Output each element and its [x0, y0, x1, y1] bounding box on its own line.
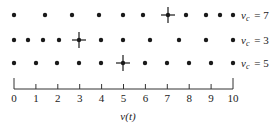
sample-dot	[41, 38, 45, 42]
tick-label: 5	[121, 92, 127, 104]
crosshair-marker-icon	[116, 55, 130, 71]
sampling-diagram: vc = 7vc = 3vc = 5 012345678910 v(t)	[0, 0, 279, 131]
sample-dot	[177, 38, 181, 42]
sample-row: vc = 5	[12, 55, 269, 71]
sample-rows: vc = 7vc = 3vc = 5	[12, 7, 269, 71]
sample-dot	[77, 61, 81, 65]
sample-dot	[99, 38, 103, 42]
tick-label: 3	[77, 92, 83, 104]
sample-dot	[97, 13, 101, 17]
sample-dot	[121, 13, 125, 17]
row-label: vc = 7	[241, 9, 269, 23]
sample-dot	[143, 61, 147, 65]
sample-dot	[55, 61, 59, 65]
sample-dot	[204, 13, 208, 17]
sample-dot	[231, 38, 235, 42]
sample-dot	[70, 13, 74, 17]
value-axis: 012345678910 v(t)	[11, 78, 239, 123]
sample-dot	[209, 61, 213, 65]
axis-ticks: 012345678910	[11, 78, 239, 104]
axis-title: v(t)	[120, 110, 136, 123]
tick-label: 1	[33, 92, 39, 104]
tick-label: 2	[55, 92, 61, 104]
sample-dot	[34, 61, 38, 65]
sample-dot	[204, 38, 208, 42]
tick-label: 0	[11, 92, 17, 104]
sample-row: vc = 7	[12, 7, 269, 23]
tick-label: 6	[143, 92, 149, 104]
sample-dot	[99, 61, 103, 65]
sample-dot	[12, 61, 16, 65]
sample-dot	[12, 13, 16, 17]
tick-label: 7	[165, 92, 171, 104]
sample-dot	[148, 38, 152, 42]
tick-label: 10	[228, 92, 240, 104]
sample-dot	[165, 61, 169, 65]
crosshair-marker-icon	[72, 32, 86, 48]
sample-dot	[57, 38, 61, 42]
tick-label: 9	[208, 92, 214, 104]
tick-label: 4	[99, 92, 105, 104]
crosshair-marker-icon	[161, 7, 175, 23]
sample-dot	[231, 61, 235, 65]
sample-dot	[187, 61, 191, 65]
sample-dot	[218, 13, 222, 17]
sample-dot	[12, 38, 16, 42]
sample-dot	[141, 13, 145, 17]
sample-dot	[26, 38, 30, 42]
sample-dot	[121, 38, 125, 42]
sample-dot	[231, 13, 235, 17]
sample-dot	[184, 13, 188, 17]
tick-label: 8	[186, 92, 192, 104]
row-label: vc = 3	[241, 34, 269, 48]
row-label: vc = 5	[241, 57, 269, 71]
sample-row: vc = 3	[12, 32, 269, 48]
sample-dot	[43, 13, 47, 17]
